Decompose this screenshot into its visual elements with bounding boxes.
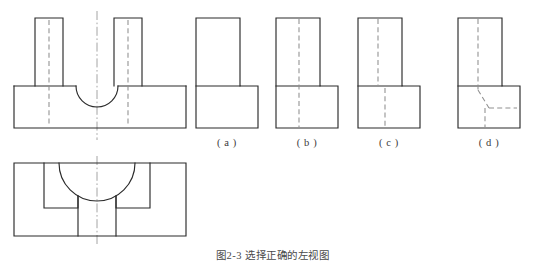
figure-caption: 图2-3 选择正确的左视图	[0, 247, 545, 262]
option-c-drawing[interactable]	[358, 18, 420, 128]
option-b-label[interactable]: ( b )	[276, 137, 338, 148]
option-d-label[interactable]: ( d )	[458, 137, 520, 148]
option-d-outline	[458, 18, 520, 128]
option-b-drawing[interactable]	[276, 18, 338, 128]
option-a-label[interactable]: ( a )	[196, 137, 258, 148]
option-c-label[interactable]: ( c )	[358, 137, 420, 148]
front-view	[14, 11, 186, 140]
top-view	[14, 156, 186, 244]
top-view-outline	[14, 163, 186, 236]
option-d-drawing[interactable]	[458, 18, 520, 128]
top-view-right-pocket	[116, 163, 150, 208]
option-a-outline	[196, 18, 258, 128]
option-d-hidden-line-diagonal	[478, 90, 489, 108]
option-b-outline	[276, 18, 338, 128]
top-view-left-pocket	[44, 163, 78, 208]
option-a-drawing[interactable]	[196, 18, 258, 128]
option-c-outline	[358, 18, 420, 128]
